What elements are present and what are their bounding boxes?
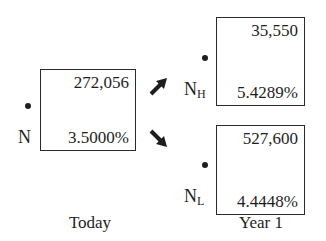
node-symbol: N	[184, 79, 197, 99]
node-dot-low	[202, 162, 208, 168]
node-label-high: NH	[184, 80, 206, 103]
node-symbol: N	[184, 186, 197, 206]
node-subscript: H	[197, 87, 206, 101]
node-value-today: 272,056	[74, 74, 129, 92]
node-label-low: NL	[184, 187, 204, 210]
node-dot-today	[25, 103, 31, 109]
column-label-year1: Year 1	[220, 214, 302, 232]
node-box-low: 527,600 4.4448%	[216, 125, 305, 215]
node-subscript: L	[197, 194, 204, 208]
node-rate-low: 4.4448%	[237, 193, 298, 211]
column-label-today: Today	[50, 214, 130, 232]
node-label-today: N	[18, 128, 31, 146]
node-rate-high: 5.4289%	[237, 84, 298, 102]
arrow-down-right-icon	[148, 128, 170, 150]
node-value-low: 527,600	[243, 130, 298, 148]
node-box-high: 35,550 5.4289%	[216, 17, 305, 106]
node-dot-high	[202, 55, 208, 61]
node-value-high: 35,550	[251, 22, 298, 40]
node-rate-today: 3.5000%	[68, 129, 129, 147]
node-symbol: N	[18, 127, 31, 147]
node-box-today: 272,056 3.5000%	[40, 69, 136, 151]
arrow-up-right-icon	[148, 75, 170, 97]
